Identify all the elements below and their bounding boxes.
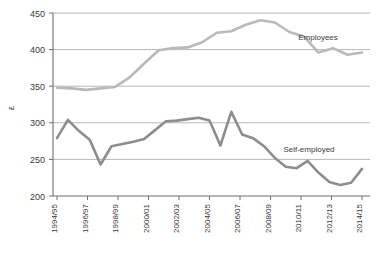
- series-label-employees: Employees: [298, 33, 338, 42]
- y-tick-marks: [49, 13, 53, 196]
- x-tick-label-3: 2000/01: [142, 203, 151, 232]
- y-tick-labels: 450 400 350 300 250 200: [30, 9, 45, 202]
- series-lines: [57, 20, 362, 185]
- x-tick-label-5: 2004/05: [203, 203, 212, 232]
- x-tick-label-4: 2002/03: [172, 203, 181, 232]
- series-label-self-employed: Self-employed: [283, 145, 334, 154]
- y-tick-label-350: 350: [30, 82, 45, 92]
- y-tick-label-250: 250: [30, 155, 45, 165]
- x-tick-label-7: 2008/09: [264, 203, 273, 232]
- y-tick-label-400: 400: [30, 45, 45, 55]
- x-tick-label-9: 2012/13: [325, 203, 334, 232]
- x-tick-label-1: 1996/97: [81, 203, 90, 232]
- x-tick-labels: 1994/951996/971998/992000/012002/032004/…: [50, 203, 364, 232]
- chart-canvas: 450 400 350 300 250 200 £ 1994/951996/97…: [0, 0, 383, 261]
- x-tick-label-8: 2010/11: [294, 203, 303, 232]
- x-tick-label-6: 2006/07: [233, 203, 242, 232]
- y-axis-title: £: [7, 105, 16, 110]
- series-line-employees: [57, 20, 362, 90]
- x-tick-marks: [57, 196, 362, 200]
- x-tick-label-0: 1994/95: [50, 203, 59, 232]
- x-tick-label-10: 2014/15: [355, 203, 364, 232]
- line-chart: 450 400 350 300 250 200 £ 1994/951996/97…: [0, 0, 383, 261]
- y-tick-label-450: 450: [30, 9, 45, 19]
- x-tick-label-2: 1998/99: [111, 203, 120, 232]
- y-tick-label-200: 200: [30, 192, 45, 202]
- y-tick-label-300: 300: [30, 118, 45, 128]
